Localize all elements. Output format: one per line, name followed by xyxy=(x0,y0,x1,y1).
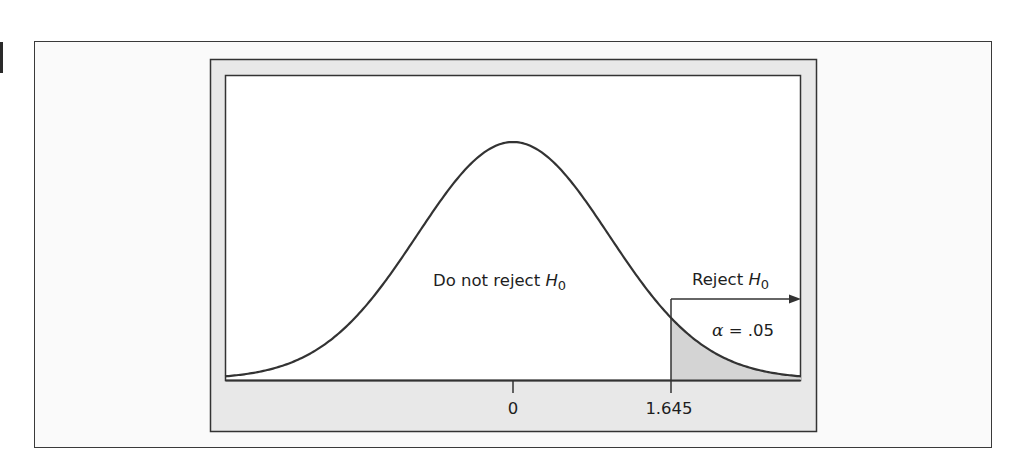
normal-distribution-chart: 0 1.645 Do not reject H0 Reject H0 α = .… xyxy=(0,0,1030,474)
tick-label-zero: 0 xyxy=(508,399,519,418)
do-not-reject-text: Do not reject xyxy=(433,271,545,290)
alpha-value: = .05 xyxy=(723,321,774,340)
hypothesis-letter: H xyxy=(748,270,760,289)
alpha-symbol: α xyxy=(712,320,724,340)
reject-label: Reject H0 xyxy=(692,270,769,292)
reject-text: Reject xyxy=(692,270,748,289)
hypothesis-letter: H xyxy=(545,271,557,290)
hypothesis-subscript: 0 xyxy=(761,277,769,292)
alpha-label: α = .05 xyxy=(712,320,774,340)
tick-label-critical: 1.645 xyxy=(645,399,692,418)
hypothesis-subscript: 0 xyxy=(558,278,566,293)
do-not-reject-label: Do not reject H0 xyxy=(433,271,566,293)
